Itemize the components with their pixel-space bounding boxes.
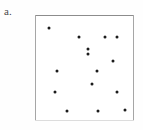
panel-label: a. <box>4 5 12 17</box>
data-point <box>54 91 57 94</box>
data-point <box>78 36 81 39</box>
data-point <box>91 83 94 86</box>
data-point <box>116 91 119 94</box>
data-point <box>124 109 127 112</box>
data-point <box>104 36 107 39</box>
axis-line-bottom <box>35 120 134 121</box>
data-point <box>56 70 59 73</box>
data-point <box>96 70 99 73</box>
figure-panel-a: a. <box>0 0 143 130</box>
data-point <box>112 60 115 63</box>
data-point <box>66 110 69 113</box>
axis-line-top <box>35 15 134 16</box>
axis-line-left <box>35 15 36 121</box>
scatter-plot-area <box>35 15 134 121</box>
data-point <box>97 110 100 113</box>
axis-line-right <box>133 15 134 121</box>
data-point <box>87 48 90 51</box>
data-point <box>116 36 119 39</box>
data-point <box>87 53 90 56</box>
data-point <box>48 27 51 30</box>
